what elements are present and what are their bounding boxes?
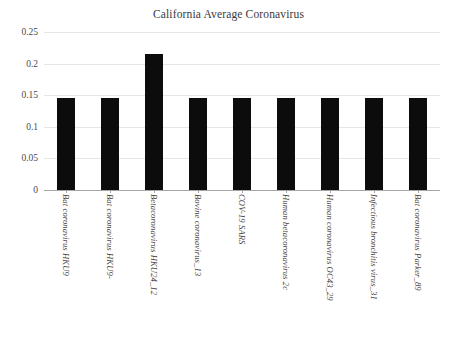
x-axis-tick-mark xyxy=(418,190,419,193)
x-axis-tick-mark xyxy=(66,190,67,193)
bar[interactable] xyxy=(321,98,339,190)
y-axis-tick-label: 0.1 xyxy=(26,122,38,132)
x-axis-tick: Bat coronavirus Parker_89 xyxy=(396,190,440,340)
x-axis-tick: Infectious bronchitis virus_31 xyxy=(352,190,396,340)
x-axis-tick-mark xyxy=(110,190,111,193)
x-axis-tick: Bat coronavirus HKU9 xyxy=(44,190,88,340)
x-axis-tick-label: Human coronavirus OC43_29 xyxy=(325,194,335,301)
x-axis-tick-label: Bat coronavirus HKU9- xyxy=(105,194,115,279)
bar[interactable] xyxy=(277,98,295,190)
x-axis-tick: Betacoronavirus HKU24_12 xyxy=(132,190,176,340)
x-axis-tick: Bat coronavirus HKU9- xyxy=(88,190,132,340)
bar[interactable] xyxy=(189,98,207,190)
x-axis-tick: Human coronavirus OC43_29 xyxy=(308,190,352,340)
chart-title: California Average Coronavirus xyxy=(0,8,457,20)
bar-chart-figure: California Average Coronavirus 00.050.10… xyxy=(0,0,457,345)
x-axis-tick: Bovine coronavirus_13 xyxy=(176,190,220,340)
x-axis-tick-mark xyxy=(330,190,331,193)
x-axis-tick-label: Human betacoronavirus 2c xyxy=(281,194,291,290)
bar[interactable] xyxy=(409,98,427,190)
x-axis-tick-mark xyxy=(198,190,199,193)
plot-area: 00.050.10.150.20.25 xyxy=(44,32,440,190)
bar[interactable] xyxy=(101,98,119,190)
y-axis-tick-label: 0.2 xyxy=(26,59,38,69)
y-axis-tick-label: 0.05 xyxy=(21,153,38,163)
x-axis-tick-label: Infectious bronchitis virus_31 xyxy=(369,194,379,300)
bars-group xyxy=(44,32,440,190)
bar[interactable] xyxy=(145,54,163,191)
bar[interactable] xyxy=(233,98,251,190)
y-axis-tick-label: 0 xyxy=(33,185,38,195)
x-axis-tick: Human betacoronavirus 2c xyxy=(264,190,308,340)
x-axis-tick-label: Betacoronavirus HKU24_12 xyxy=(149,194,159,295)
x-axis-tick: COV-19 SARS xyxy=(220,190,264,340)
x-axis-tick-mark xyxy=(286,190,287,193)
x-axis-tick-mark xyxy=(154,190,155,193)
x-axis-tick-mark xyxy=(374,190,375,193)
x-axis-tick-label: Bat coronavirus Parker_89 xyxy=(413,194,423,291)
x-axis-tick-label: Bat coronavirus HKU9 xyxy=(61,194,71,276)
x-axis-labels-group: Bat coronavirus HKU9Bat coronavirus HKU9… xyxy=(44,190,440,340)
x-axis-tick-label: Bovine coronavirus_13 xyxy=(193,194,203,276)
y-axis-tick-label: 0.25 xyxy=(21,27,38,37)
bar[interactable] xyxy=(365,98,383,190)
x-axis-tick-mark xyxy=(242,190,243,193)
bar[interactable] xyxy=(57,98,75,190)
x-axis-tick-label: COV-19 SARS xyxy=(237,194,247,245)
y-axis-tick-label: 0.15 xyxy=(21,90,38,100)
